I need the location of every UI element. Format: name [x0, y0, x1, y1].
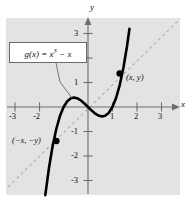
x-tick-label-1: 1 — [110, 111, 114, 121]
x-tick-label-3: 3 — [158, 111, 162, 121]
point-marker-positive — [116, 70, 123, 77]
x-axis-arrow — [172, 104, 180, 111]
figure-container: g(x) = x3 − x x y -3 -2 1 2 3 3 1 -1 -2 … — [0, 0, 190, 204]
y-tick-label-1: 1 — [74, 77, 78, 87]
graph-canvas — [0, 0, 190, 204]
equation-callout-box: g(x) = x3 − x — [9, 42, 87, 63]
y-tick-label-3: 3 — [74, 28, 78, 38]
y-tick-label-neg1: -1 — [71, 126, 78, 136]
equation-leader-line — [56, 63, 72, 98]
point-label-positive: (x, y) — [126, 72, 143, 82]
x-tick-label-2: 2 — [134, 111, 138, 121]
y-tick-label-neg2: -2 — [71, 150, 78, 160]
y-axis-arrow — [85, 17, 92, 25]
equation-text: g(x) = x3 − x — [25, 47, 72, 59]
y-axis-label: y — [90, 2, 94, 12]
x-tick-label-neg2: -2 — [33, 111, 40, 121]
x-axis-label: x — [181, 99, 185, 109]
y-tick-label-neg3: -3 — [71, 175, 78, 185]
x-tick-label-neg3: -3 — [9, 111, 16, 121]
point-marker-negative — [53, 138, 60, 145]
point-label-negative: (−x, −y) — [12, 135, 41, 145]
